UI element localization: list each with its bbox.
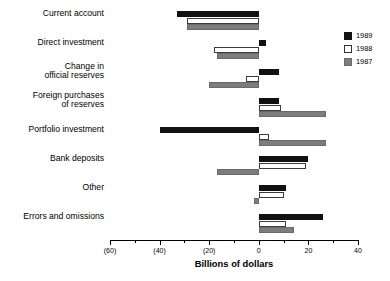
- bar: [259, 140, 326, 146]
- legend-item: 1987: [344, 55, 388, 68]
- bar: [259, 134, 269, 140]
- legend-label: 1989: [356, 31, 372, 40]
- bar-group: [110, 127, 358, 146]
- axis-tick: [259, 240, 260, 245]
- bar: [254, 198, 259, 204]
- axis-minor-tick: [234, 240, 235, 243]
- bar: [259, 156, 309, 162]
- bar: [217, 169, 259, 175]
- category-label: Errors and omissions: [23, 212, 104, 222]
- bar: [259, 105, 281, 111]
- axis-minor-tick: [284, 240, 285, 243]
- legend: 198919881987: [344, 29, 388, 68]
- bar-group: [110, 11, 358, 30]
- category-label: Current account: [43, 9, 104, 19]
- category-label: Change inofficial reserves: [44, 62, 104, 81]
- category-label-line: official reserves: [44, 71, 104, 81]
- plot-area: [110, 6, 358, 238]
- category-label: Direct investment: [38, 38, 104, 48]
- axis-tick-label: (40): [140, 247, 180, 254]
- bar: [259, 40, 266, 46]
- category-label: Portfolio investment: [29, 125, 104, 135]
- bar: [209, 82, 259, 88]
- legend-item: 1989: [344, 29, 388, 42]
- category-label-line: Direct investment: [38, 38, 104, 48]
- bar: [177, 11, 259, 17]
- bar-group: [110, 69, 358, 88]
- axis-tick: [110, 240, 111, 245]
- axis-tick: [358, 240, 359, 245]
- bar-chart: Current accountDirect investmentChange i…: [0, 0, 390, 281]
- axis-tick-label: 20: [288, 247, 328, 254]
- category-label: Other: [83, 183, 105, 193]
- category-label-line: Bank deposits: [50, 154, 104, 164]
- bar: [259, 221, 286, 227]
- legend-label: 1987: [356, 57, 372, 66]
- axis-tick: [308, 240, 309, 245]
- category-label-line: of reserves: [33, 100, 104, 110]
- bar: [160, 127, 259, 133]
- legend-swatch-icon: [344, 45, 352, 53]
- axis-minor-tick: [135, 240, 136, 243]
- bar: [259, 214, 323, 220]
- bar: [259, 163, 306, 169]
- category-label-line: Errors and omissions: [23, 212, 104, 222]
- legend-label: 1988: [356, 44, 372, 53]
- category-label: Foreign purchasesof reserves: [33, 91, 104, 110]
- category-label-line: Current account: [43, 9, 104, 19]
- axis-minor-tick: [184, 240, 185, 243]
- legend-swatch-icon: [344, 32, 352, 40]
- axis-title: Billions of dollars: [110, 258, 358, 269]
- legend-swatch-icon: [344, 58, 352, 66]
- axis-tick: [160, 240, 161, 245]
- bar: [259, 227, 294, 233]
- legend-item: 1988: [344, 42, 388, 55]
- bar: [259, 185, 286, 191]
- bar: [259, 111, 326, 117]
- category-label-line: Portfolio investment: [29, 125, 104, 135]
- bar-group: [110, 156, 358, 175]
- axis-tick-label: 0: [239, 247, 279, 254]
- bar: [217, 53, 259, 59]
- bar: [214, 47, 259, 53]
- axis-tick-label: (20): [189, 247, 229, 254]
- category-label-line: Other: [83, 183, 105, 193]
- axis-minor-tick: [333, 240, 334, 243]
- axis-tick-label: 40: [338, 247, 378, 254]
- category-label: Bank deposits: [50, 154, 104, 164]
- axis-tick-label: (60): [90, 247, 130, 254]
- bar-group: [110, 40, 358, 59]
- bar: [259, 69, 279, 75]
- bar: [187, 18, 259, 24]
- bar-group: [110, 98, 358, 117]
- bar: [187, 24, 259, 30]
- bar: [259, 192, 284, 198]
- bar-group: [110, 214, 358, 233]
- bar: [246, 76, 258, 82]
- bar-group: [110, 185, 358, 204]
- axis-tick: [209, 240, 210, 245]
- category-axis-labels: Current accountDirect investmentChange i…: [0, 0, 104, 232]
- bar: [259, 98, 279, 104]
